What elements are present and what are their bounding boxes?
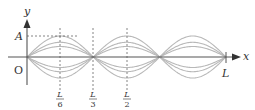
standing-wave-diagram: y x A O L L 6 L 3 L 2: [0, 0, 255, 110]
y-axis-arrow-icon: [24, 19, 31, 28]
svg-text:6: 6: [57, 100, 62, 109]
x-axis-arrow-icon: [232, 54, 241, 61]
length-label: L: [221, 67, 229, 80]
svg-text:3: 3: [90, 100, 95, 109]
origin-label: O: [14, 64, 23, 77]
marker-label-l2: L 2: [123, 90, 131, 109]
y-axis-label: y: [23, 5, 31, 18]
svg-text:L: L: [123, 90, 129, 99]
svg-text:2: 2: [124, 100, 129, 109]
marker-label-l3: L 3: [89, 90, 97, 109]
x-axis-label: x: [243, 50, 250, 63]
svg-text:L: L: [89, 90, 95, 99]
amplitude-label: A: [14, 30, 23, 43]
marker-label-l6: L 6: [56, 90, 64, 109]
svg-text:L: L: [56, 90, 62, 99]
